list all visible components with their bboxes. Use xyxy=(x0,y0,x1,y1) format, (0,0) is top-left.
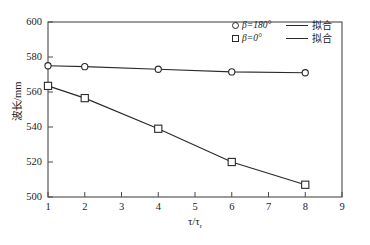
legend-fit-line-2 xyxy=(286,38,308,39)
plot-frame xyxy=(48,22,342,197)
series-beta-180-markers xyxy=(45,63,308,76)
data-point-circle xyxy=(302,70,308,76)
data-point-square xyxy=(302,181,309,188)
x-tick-label-2: 2 xyxy=(75,202,95,213)
x-tick-label-1: 1 xyxy=(38,202,58,213)
legend-fit-line-1 xyxy=(286,25,308,26)
data-point-circle xyxy=(82,64,88,70)
legend: β=180° 拟合 β=0° 拟合 xyxy=(228,19,332,45)
x-tick-label-9: 9 xyxy=(332,202,352,213)
y-tick-label-600: 600 xyxy=(8,17,42,28)
legend-label-beta-0: β=0° xyxy=(242,34,286,44)
x-axis-ticks xyxy=(48,192,342,197)
chart-figure: 600 580 560 540 520 500 1 2 3 4 5 6 7 8 … xyxy=(0,0,370,245)
x-tick-label-5: 5 xyxy=(185,202,205,213)
y-axis-ticks xyxy=(48,22,53,197)
x-tick-label-4: 4 xyxy=(148,202,168,213)
x-tick-label-8: 8 xyxy=(295,202,315,213)
legend-label-beta-180: β=180° xyxy=(242,21,286,31)
circle-marker-icon xyxy=(228,21,242,30)
x-axis-title-sub: r xyxy=(200,222,202,230)
data-point-square xyxy=(155,125,162,132)
square-marker-icon xyxy=(228,34,242,43)
x-tick-label-7: 7 xyxy=(259,202,279,213)
data-point-circle xyxy=(155,66,161,72)
x-tick-label-3: 3 xyxy=(112,202,132,213)
series-beta-180 xyxy=(45,63,308,76)
legend-row-beta-0: β=0° 拟合 xyxy=(228,32,332,45)
x-axis-title-main: τ/τ xyxy=(188,215,200,227)
series-beta-0-markers xyxy=(44,82,308,188)
data-point-circle xyxy=(229,69,235,75)
data-point-circle xyxy=(45,63,51,69)
data-point-square xyxy=(81,95,88,102)
y-axis-title: 波长/mm xyxy=(13,61,24,141)
data-point-square xyxy=(44,82,51,89)
legend-fit-label-2: 拟合 xyxy=(312,34,332,44)
legend-fit-label-1: 拟合 xyxy=(312,21,332,31)
data-point-square xyxy=(228,158,235,165)
y-tick-label-500: 500 xyxy=(8,192,42,203)
series-beta-0 xyxy=(44,82,308,188)
x-axis-title: τ/τr xyxy=(155,216,235,230)
y-tick-label-520: 520 xyxy=(8,157,42,168)
legend-row-beta-180: β=180° 拟合 xyxy=(228,19,332,32)
x-tick-label-6: 6 xyxy=(222,202,242,213)
